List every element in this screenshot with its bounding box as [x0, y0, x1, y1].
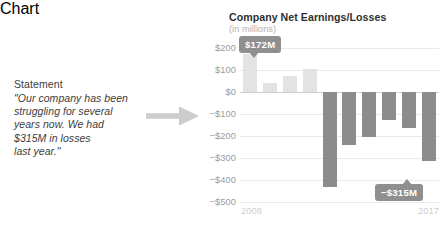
- y-axis-tick: $200: [194, 43, 236, 53]
- statement-label: Statement: [14, 78, 132, 91]
- y-axis-tick: −$200: [194, 131, 236, 141]
- bar: [323, 92, 337, 187]
- y-axis-tick: −$500: [194, 197, 236, 207]
- statement-quote-line: $315M in losses: [14, 132, 132, 145]
- callout-tail-icon: [249, 52, 259, 58]
- statement-block: Statement "Our company has been struggli…: [14, 78, 132, 158]
- trough-callout-label: −$315M: [381, 187, 417, 198]
- bar: [342, 92, 356, 145]
- bar: [303, 69, 317, 92]
- bar: [402, 92, 416, 128]
- y-axis-tick: $0: [194, 87, 236, 97]
- y-axis-tick: −$100: [194, 109, 236, 119]
- figure-root: Statement "Our company has been struggli…: [0, 0, 443, 242]
- y-axis-tick: $100: [194, 65, 236, 75]
- bar: [263, 83, 277, 92]
- peak-callout-label: $172M: [245, 39, 275, 50]
- x-axis-tick-last: 2017: [418, 206, 439, 216]
- peak-callout: $172M: [239, 36, 281, 53]
- statement-quote-line: years now. We had: [14, 118, 132, 131]
- y-axis-tick: −$300: [194, 153, 236, 163]
- statement-quote: "Our company has been struggling for sev…: [14, 92, 132, 158]
- bar: [283, 76, 297, 93]
- x-axis-tick-first: 2008: [241, 206, 262, 216]
- cut-off-caption: [12, 235, 432, 242]
- callout-tail-icon: [402, 179, 412, 185]
- arrow-right-icon: [146, 104, 200, 128]
- bar: [362, 92, 376, 137]
- bar: [382, 92, 396, 120]
- y-axis-tick: −$400: [194, 175, 236, 185]
- trough-callout: −$315M: [375, 184, 423, 201]
- statement-quote-line: "Our company has been: [14, 92, 132, 105]
- statement-quote-line: last year.": [14, 145, 132, 158]
- bar: [422, 92, 436, 161]
- statement-quote-line: struggling for several: [14, 105, 132, 118]
- bar: [243, 54, 257, 92]
